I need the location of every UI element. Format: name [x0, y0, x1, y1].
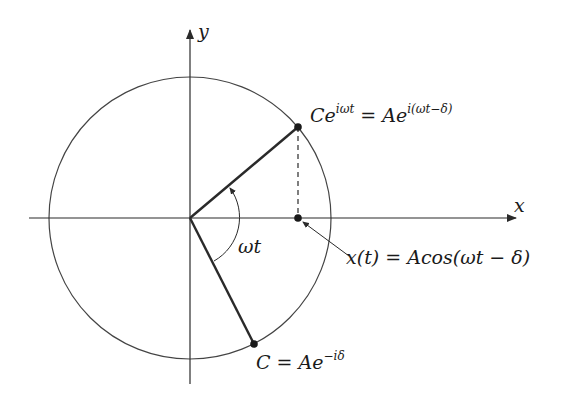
- rotating-rhs: Ae: [382, 104, 407, 126]
- initial-point: [250, 340, 258, 348]
- x-axis-label: x: [514, 196, 525, 215]
- rotating-point: [294, 123, 302, 131]
- initial-exponent: −iδ: [324, 349, 345, 363]
- initial-phasor-label: C = Ae−iδ: [256, 353, 345, 372]
- projection-label: x(t) = Acos(ωt − δ): [346, 248, 530, 267]
- rotating-equals: =: [360, 104, 376, 126]
- initial-base: C = Ae: [256, 351, 324, 373]
- angle-arc: [214, 188, 240, 261]
- rotating-base-exponent: iωt: [336, 102, 354, 116]
- projection-point: [294, 214, 302, 222]
- rotating-phasor-label: Ceiωt = Aei(ωt−δ): [310, 106, 452, 125]
- rotating-rhs-exponent: i(ωt−δ): [407, 102, 452, 116]
- rotating-base: Ce: [310, 104, 336, 126]
- phasor-diagram: [0, 0, 561, 401]
- projection-pointer-arrow: [303, 222, 349, 256]
- rotating-phasor-line: [190, 127, 298, 218]
- angle-label: ωt: [238, 237, 261, 256]
- y-axis-label: y: [198, 22, 209, 41]
